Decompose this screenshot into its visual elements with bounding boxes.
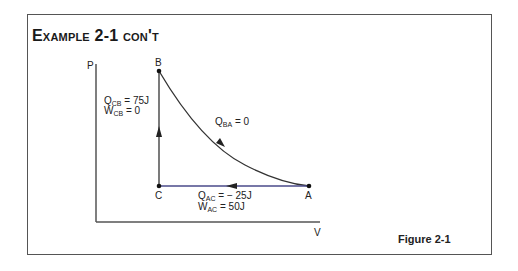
q-ba-label: QBA = 0 — [215, 116, 249, 128]
v-axis-label: V — [314, 227, 321, 238]
p-axis-label: P — [87, 60, 94, 71]
point-c-label: C — [155, 190, 162, 201]
arrow-up-icon — [156, 126, 162, 137]
pv-diagram — [0, 0, 518, 271]
point-a-label: A — [305, 190, 312, 201]
point-b — [157, 69, 162, 74]
point-b-label: B — [155, 57, 162, 68]
figure-caption: Figure 2-1 — [398, 233, 451, 245]
arrow-left-icon — [226, 183, 237, 189]
w-cb-label: WCB = 0 — [104, 105, 140, 117]
process-ba-curve — [159, 71, 309, 186]
w-ac-label: WAC = 50J — [198, 201, 245, 213]
point-c — [157, 184, 162, 189]
point-a — [307, 184, 312, 189]
